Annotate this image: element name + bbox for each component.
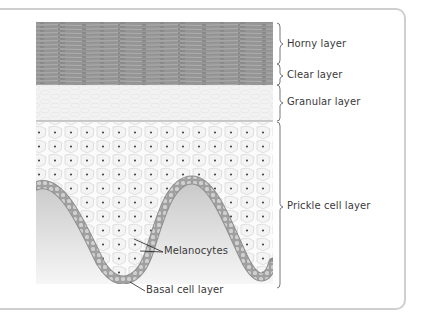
label-clear-layer: Clear layer xyxy=(287,69,343,80)
horny-layer-region xyxy=(36,22,273,85)
bracket-clear xyxy=(277,64,283,85)
label-melanocytes: Melanocytes xyxy=(164,245,228,256)
bracket-prickle xyxy=(277,122,283,288)
label-granular-layer: Granular layer xyxy=(287,96,360,107)
label-basal-cell-layer: Basal cell layer xyxy=(146,284,223,295)
granular-layer-region xyxy=(36,85,273,121)
bracket-granular xyxy=(277,85,283,121)
layer-brackets xyxy=(277,23,283,288)
label-horny-layer: Horny layer xyxy=(287,38,346,49)
label-prickle-cell-layer: Prickle cell layer xyxy=(287,200,370,211)
bracket-horny xyxy=(277,23,283,64)
epidermis-diagram xyxy=(0,0,423,315)
